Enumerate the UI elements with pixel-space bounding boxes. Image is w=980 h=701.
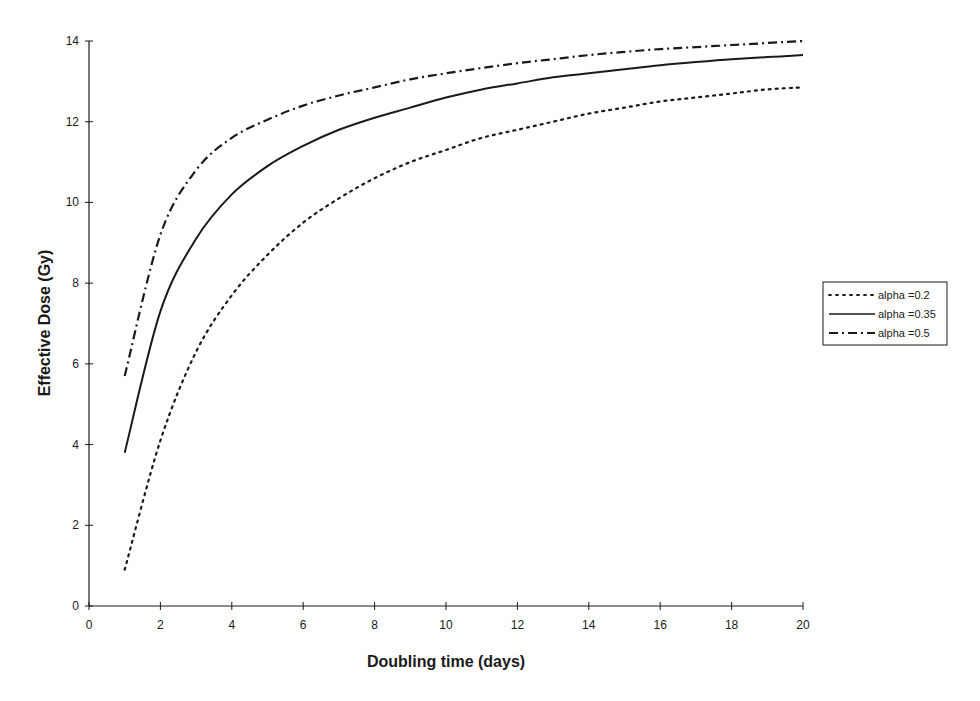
legend-label: alpha =0.5: [878, 327, 930, 339]
y-tick-label: 12: [66, 115, 80, 129]
x-tick-label: 18: [725, 618, 739, 632]
x-tick-label: 6: [300, 618, 307, 632]
series-lines: [125, 41, 803, 570]
x-tick-label: 20: [796, 618, 810, 632]
legend: alpha =0.2alpha =0.35alpha =0.5: [823, 282, 947, 345]
x-tick-label: 4: [228, 618, 235, 632]
legend-label: alpha =0.2: [878, 289, 930, 301]
y-axis-title: Effective Dose (Gy): [36, 250, 53, 397]
axes: 0246810121416182002468101214: [66, 34, 810, 632]
series-line-alpha-0-35: [125, 55, 803, 453]
x-tick-label: 8: [371, 618, 378, 632]
y-tick-label: 0: [72, 599, 79, 613]
x-tick-label: 14: [582, 618, 596, 632]
x-tick-label: 12: [511, 618, 525, 632]
x-tick-label: 2: [157, 618, 164, 632]
y-tick-label: 4: [72, 438, 79, 452]
y-tick-label: 10: [66, 195, 80, 209]
y-tick-label: 8: [72, 276, 79, 290]
x-axis-title: Doubling time (days): [367, 653, 525, 670]
series-line-alpha-0-2: [125, 87, 803, 569]
series-line-alpha-0-5: [125, 41, 803, 376]
x-tick-label: 16: [654, 618, 668, 632]
y-tick-label: 2: [72, 518, 79, 532]
x-tick-label: 0: [86, 618, 93, 632]
legend-label: alpha =0.35: [878, 308, 936, 320]
y-tick-label: 14: [66, 34, 80, 48]
x-tick-label: 10: [439, 618, 453, 632]
chart: 0246810121416182002468101214 alpha =0.2a…: [0, 0, 980, 701]
y-tick-label: 6: [72, 357, 79, 371]
